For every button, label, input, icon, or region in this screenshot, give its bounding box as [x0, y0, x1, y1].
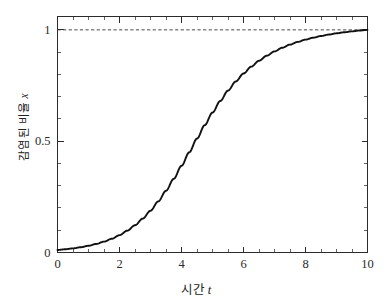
x-tick-label: 4 [178, 258, 184, 271]
minor-tick-marks [58, 17, 368, 253]
y-axis-label: 감염된 비율 x [15, 93, 31, 160]
x-axis-label-text: 시간 [181, 283, 205, 297]
x-axis-label: 시간 t [0, 279, 392, 298]
axes-frame [58, 17, 368, 253]
x-tick-label: 0 [54, 258, 60, 271]
chart-figure: 0246810 00.51 시간 t 감염된 비율 x [0, 0, 392, 305]
x-axis-label-variable: t [208, 283, 211, 297]
y-axis-label-wrapper: 감염된 비율 x [14, 0, 32, 253]
y-axis-label-text: 감염된 비율 [18, 101, 30, 160]
x-tick-label: 10 [361, 258, 374, 271]
major-tick-marks [58, 17, 368, 253]
x-tick-label: 6 [240, 258, 246, 271]
y-axis-label-variable: x [18, 93, 30, 98]
logistic-curve [58, 30, 368, 250]
x-tick-label: 2 [116, 258, 122, 271]
x-tick-label: 8 [302, 258, 308, 271]
